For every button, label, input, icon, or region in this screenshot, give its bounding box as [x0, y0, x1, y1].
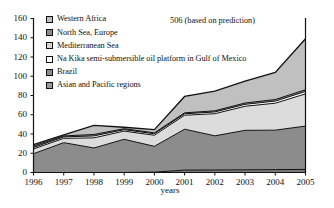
legend-swatch-na-kika [46, 56, 53, 63]
legend-label-mediterranean-sea: Mediterranean Sea [57, 42, 119, 50]
legend-label-brazil: Brazil [57, 68, 77, 76]
legend-label-asian-pacific: Asian and Pacific regions [57, 81, 141, 89]
legend-label-na-kika: Na Kika semi-submersible oil platform in… [57, 55, 246, 63]
legend-swatch-brazil [46, 69, 53, 76]
x-tick-label-2002: 2002 [200, 178, 230, 187]
x-tick-label-1998: 1998 [79, 178, 109, 187]
x-tick-label-1997: 1997 [49, 178, 79, 187]
x-axis-title: years [140, 186, 200, 195]
legend-swatch-western-africa [46, 16, 53, 23]
legend-swatch-mediterranean-sea [46, 42, 53, 49]
x-tick-label-1996: 1996 [19, 178, 49, 187]
chart-annotation-prediction: 506 (based on prediction) [170, 16, 255, 25]
legend-item-north-sea-europe[interactable]: North Sea, Europe [46, 26, 246, 39]
x-tick-label-2004: 2004 [260, 178, 290, 187]
y-tick-label-140: 140 [3, 33, 27, 42]
y-tick-label-20: 20 [3, 149, 27, 158]
y-tick-label-160: 160 [3, 14, 27, 23]
legend-swatch-north-sea-europe [46, 29, 53, 36]
legend-item-na-kika[interactable]: Na Kika semi-submersible oil platform in… [46, 53, 246, 66]
legend-swatch-asian-pacific [46, 82, 53, 89]
legend-label-western-africa: Western Africa [57, 15, 106, 23]
y-tick-label-0: 0 [3, 168, 27, 177]
y-tick-label-100: 100 [3, 72, 27, 81]
x-tick-label-2005: 2005 [291, 178, 321, 187]
y-tick-label-80: 80 [3, 91, 27, 100]
stacked-area-chart: Western Africa North Sea, Europe Mediter… [0, 0, 334, 208]
x-tick-label-2003: 2003 [230, 178, 260, 187]
legend-item-asian-pacific[interactable]: Asian and Pacific regions [46, 79, 246, 92]
legend-item-brazil[interactable]: Brazil [46, 66, 246, 79]
y-tick-label-60: 60 [3, 110, 27, 119]
legend-item-mediterranean-sea[interactable]: Mediterranean Sea [46, 39, 246, 52]
legend-label-north-sea-europe: North Sea, Europe [57, 29, 118, 37]
y-tick-label-40: 40 [3, 130, 27, 139]
x-tick-label-1999: 1999 [109, 178, 139, 187]
y-tick-label-120: 120 [3, 53, 27, 62]
